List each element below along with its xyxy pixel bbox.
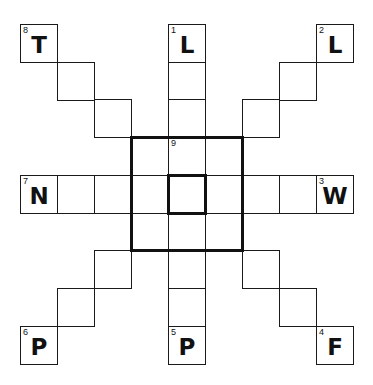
grid-cell-r1-c7[interactable] — [279, 62, 317, 101]
cell-letter: P — [169, 333, 205, 361]
cell-letter: F — [317, 333, 353, 361]
grid-cell-r4-c1[interactable] — [57, 175, 95, 214]
grid-cell-r3-c3[interactable] — [131, 137, 169, 176]
cell-letter: P — [21, 333, 57, 361]
crossword-star-grid: 8T2L6P4F1L95P7N3W — [0, 0, 373, 385]
grid-cell-r7-c1[interactable] — [57, 288, 95, 327]
grid-cell-r1-c1[interactable] — [57, 62, 95, 101]
grid-cell-r4-c8[interactable]: 3W — [316, 175, 354, 214]
grid-cell-r2-c6[interactable] — [242, 99, 280, 138]
cell-letter: L — [169, 31, 205, 59]
grid-cell-r2-c4[interactable] — [168, 99, 206, 138]
grid-cell-r5-c3[interactable] — [131, 213, 169, 252]
grid-cell-r7-c4[interactable] — [168, 288, 206, 327]
grid-cell-r1-c4[interactable] — [168, 62, 206, 101]
grid-cell-r7-c7[interactable] — [279, 288, 317, 327]
cell-letter: W — [317, 182, 353, 210]
grid-cell-r5-c4[interactable] — [168, 213, 206, 252]
grid-cell-r3-c4[interactable]: 9 — [168, 137, 206, 176]
clue-number: 9 — [171, 138, 176, 148]
grid-cell-r6-c4[interactable] — [168, 250, 206, 289]
grid-cell-r0-c8[interactable]: 2L — [316, 24, 354, 63]
grid-cell-r4-c2[interactable] — [94, 175, 132, 214]
cell-letter: T — [21, 31, 57, 59]
grid-cell-r0-c0[interactable]: 8T — [20, 24, 58, 63]
grid-cell-r4-c5[interactable] — [205, 175, 243, 214]
cell-letter: L — [317, 31, 353, 59]
grid-cell-r8-c8[interactable]: 4F — [316, 326, 354, 365]
grid-cell-r2-c2[interactable] — [94, 99, 132, 138]
grid-cell-r8-c0[interactable]: 6P — [20, 326, 58, 365]
cell-letter: N — [21, 182, 57, 210]
grid-cell-r4-c7[interactable] — [279, 175, 317, 214]
grid-cell-r4-c4[interactable] — [168, 175, 206, 214]
grid-cell-r3-c5[interactable] — [205, 137, 243, 176]
grid-cell-r5-c5[interactable] — [205, 213, 243, 252]
grid-cell-r4-c3[interactable] — [131, 175, 169, 214]
grid-cell-r4-c0[interactable]: 7N — [20, 175, 58, 214]
grid-cell-r6-c6[interactable] — [242, 250, 280, 289]
grid-cell-r0-c4[interactable]: 1L — [168, 24, 206, 63]
grid-cell-r4-c6[interactable] — [242, 175, 280, 214]
grid-cell-r6-c2[interactable] — [94, 250, 132, 289]
grid-cell-r8-c4[interactable]: 5P — [168, 326, 206, 365]
